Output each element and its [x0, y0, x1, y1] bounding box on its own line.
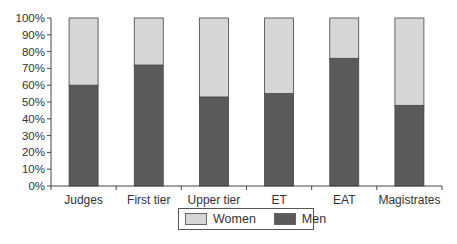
bar-men-eat [330, 58, 359, 186]
x-category-label: Magistrates [378, 193, 440, 207]
legend-item-men: Men [268, 212, 326, 226]
bar-men-upper-tier [199, 97, 228, 186]
bar-men-et [265, 94, 294, 186]
legend-swatch-men [274, 213, 296, 225]
bar-women-first-tier [134, 18, 163, 65]
y-tick-label: 10% [22, 163, 45, 175]
y-tick-label: 70% [22, 62, 45, 74]
y-tick-label: 40% [22, 113, 45, 125]
legend-label-men: Men [302, 212, 326, 226]
bar-women-et [265, 18, 294, 94]
bar-women-magistrates [395, 18, 424, 105]
x-category-label: Judges [64, 193, 103, 207]
legend: Women Men [178, 208, 314, 230]
x-category-label: ET [271, 193, 287, 207]
bar-women-upper-tier [199, 18, 228, 97]
x-category-label: Upper tier [188, 193, 241, 207]
y-tick-label: 90% [22, 29, 45, 41]
y-tick-label: 0% [28, 180, 45, 192]
bar-women-judges [69, 18, 98, 85]
y-tick-label: 100% [16, 12, 45, 24]
x-axis: JudgesFirst tierUpper tierETEATMagistrat… [51, 186, 442, 207]
x-category-label: First tier [127, 193, 170, 207]
legend-label-women: Women [213, 212, 256, 226]
bar-men-first-tier [134, 65, 163, 186]
y-tick-label: 60% [22, 79, 45, 91]
y-tick-label: 50% [22, 96, 45, 108]
bar-women-eat [330, 18, 359, 58]
bar-men-magistrates [395, 105, 424, 186]
y-tick-label: 80% [22, 46, 45, 58]
y-axis: 0%10%20%30%40%50%60%70%80%90%100% [16, 12, 51, 192]
legend-swatch-women [185, 213, 207, 225]
y-tick-label: 20% [22, 146, 45, 158]
legend-item-women: Women [179, 212, 256, 226]
x-category-label: EAT [333, 193, 356, 207]
bars [69, 18, 424, 186]
bar-men-judges [69, 85, 98, 186]
y-tick-label: 30% [22, 130, 45, 142]
